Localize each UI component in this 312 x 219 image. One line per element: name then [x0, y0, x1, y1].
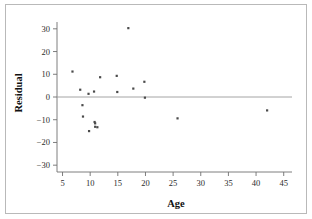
data-points — [71, 27, 268, 132]
x-tick-label: 45 — [279, 178, 288, 188]
x-tick-label: 35 — [224, 178, 233, 188]
x-tick-label: 15 — [114, 178, 123, 188]
data-point — [79, 89, 81, 91]
data-point — [94, 122, 96, 124]
data-point — [87, 93, 89, 95]
y-tick-label: −10 — [37, 115, 50, 125]
data-point — [94, 126, 96, 128]
data-point — [71, 70, 73, 72]
x-tick-label: 25 — [169, 178, 178, 188]
y-tick-label: −20 — [37, 137, 50, 147]
data-point — [116, 91, 118, 93]
data-point — [82, 115, 84, 117]
x-tick-label: 20 — [141, 178, 150, 188]
scatter-plot: 3020100−10−20−30 51015202530354045 Age R… — [0, 0, 312, 219]
data-point — [143, 81, 145, 83]
y-tick-label: 0 — [46, 92, 50, 102]
x-tick-label: 5 — [60, 178, 64, 188]
data-point — [144, 97, 146, 99]
x-tick-label: 10 — [86, 178, 95, 188]
x-axis: 51015202530354045 — [57, 172, 292, 188]
data-point — [132, 87, 134, 89]
data-point — [99, 76, 101, 78]
y-axis-title: Residual — [13, 73, 24, 112]
data-point — [127, 27, 129, 29]
y-axis: 3020100−10−20−30 — [37, 22, 57, 172]
data-point — [96, 126, 98, 128]
data-point — [116, 75, 118, 77]
x-tick-label: 30 — [197, 178, 206, 188]
x-axis-title: Age — [167, 198, 185, 209]
y-tick-label: −30 — [37, 160, 50, 170]
y-tick-label: 20 — [42, 47, 51, 57]
data-point — [93, 90, 95, 92]
data-point — [266, 109, 268, 111]
data-point — [88, 130, 90, 132]
chart-figure: 3020100−10−20−30 51015202530354045 Age R… — [0, 0, 312, 219]
x-tick-label: 40 — [252, 178, 261, 188]
data-point — [176, 117, 178, 119]
data-point — [81, 104, 83, 106]
y-tick-label: 30 — [42, 24, 51, 34]
y-tick-label: 10 — [42, 69, 51, 79]
